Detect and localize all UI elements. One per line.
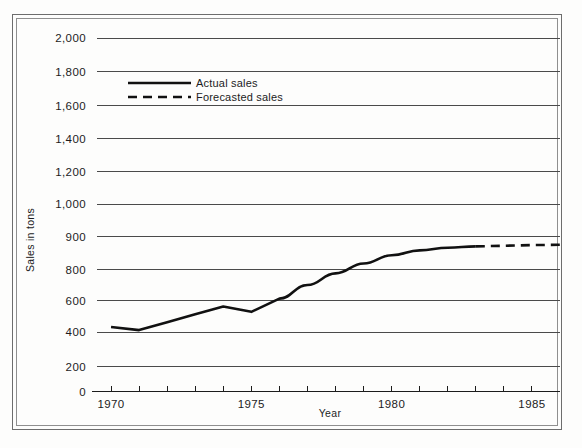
x-tick-label: 1980 xyxy=(378,398,405,410)
y-tick-label: 600 xyxy=(66,295,86,307)
chart-canvas: 02004006008009001,0001,2001,4001,6001,80… xyxy=(0,0,582,448)
y-tick-labels-group: 02004006008009001,0001,2001,4001,6001,80… xyxy=(55,32,86,398)
x-tick-label: 1985 xyxy=(518,398,545,410)
y-tick-label: 1,800 xyxy=(55,66,86,78)
y-tick-label: 1,400 xyxy=(55,133,86,145)
chart-page: 02004006008009001,0001,2001,4001,6001,80… xyxy=(0,0,582,448)
y-tick-label: 200 xyxy=(66,361,86,373)
y-tick-label: 800 xyxy=(66,264,86,276)
x-tick-label: 1975 xyxy=(238,398,265,410)
legend: Actual sales Forecasted sales xyxy=(128,77,283,103)
y-tick-label: 400 xyxy=(66,326,86,338)
legend-label-forecasted-sales: Forecasted sales xyxy=(196,91,283,103)
y-tick-label: 900 xyxy=(66,231,86,243)
y-tick-label: 1,600 xyxy=(55,100,86,112)
y-tick-label: 1,000 xyxy=(55,198,86,210)
y-tick-label: 1,200 xyxy=(55,166,86,178)
gridlines-group xyxy=(92,38,560,392)
series-actual-sales-line xyxy=(111,246,476,330)
x-tick-label: 1970 xyxy=(97,398,124,410)
series-forecasted-sales-line xyxy=(476,245,560,247)
y-axis-title: Sales in tons xyxy=(24,208,36,272)
y-tick-label: 0 xyxy=(79,386,86,398)
y-tick-label: 2,000 xyxy=(55,32,86,44)
x-axis-title: Year xyxy=(319,407,342,419)
line-chart: 02004006008009001,0001,2001,4001,6001,80… xyxy=(0,0,582,448)
x-tick-marks-group xyxy=(111,386,532,392)
legend-label-actual-sales: Actual sales xyxy=(196,77,258,89)
